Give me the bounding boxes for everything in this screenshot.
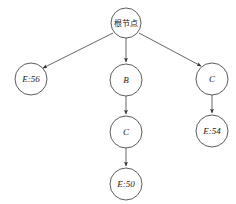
- edge-root-to-e56: [43, 33, 113, 68]
- node-e50-label: E:50: [116, 179, 135, 189]
- node-b[interactable]: B: [110, 64, 142, 96]
- node-root-label: 根节点: [114, 18, 138, 28]
- node-c2[interactable]: C: [110, 116, 142, 148]
- edge-root-to-c1: [139, 33, 201, 66]
- node-e50[interactable]: E:50: [110, 168, 142, 200]
- node-e56-label: E:56: [21, 74, 40, 84]
- node-c1[interactable]: C: [196, 63, 228, 95]
- node-e56[interactable]: E:56: [15, 63, 47, 95]
- tree-diagram: 根节点 E:56 B C C E:54: [0, 0, 236, 204]
- nodes-group: 根节点 E:56 B C C E:54: [15, 8, 228, 200]
- node-c2-label: C: [123, 127, 130, 137]
- node-e54[interactable]: E:54: [196, 115, 228, 147]
- node-c1-label: C: [209, 74, 216, 84]
- node-b-label: B: [123, 75, 129, 85]
- node-root[interactable]: 根节点: [111, 8, 141, 38]
- node-e54-label: E:54: [202, 126, 221, 136]
- tree-diagram-canvas: 根节点 E:56 B C C E:54: [0, 0, 236, 204]
